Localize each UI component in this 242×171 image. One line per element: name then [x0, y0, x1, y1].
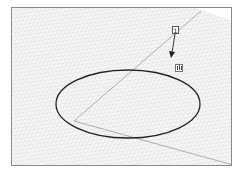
3d-viewport[interactable]: 1	[11, 7, 232, 166]
callout-number: 1	[174, 27, 178, 34]
scene-canvas[interactable]	[12, 8, 232, 166]
pushpull-tool-icon	[175, 64, 183, 72]
callout-label: 1	[172, 26, 179, 34]
ground-grid	[12, 8, 232, 166]
